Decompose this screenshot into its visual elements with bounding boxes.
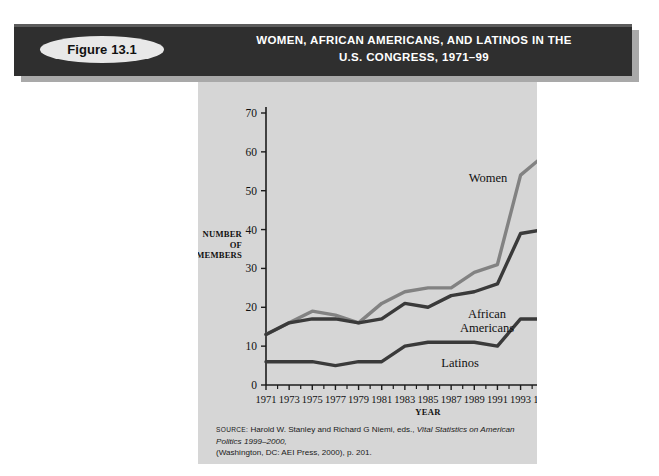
banner-bar: Figure 13.1 WOMEN, AFRICAN AMERICANS, AN… — [14, 24, 632, 76]
annotation-african-americans: African — [468, 307, 507, 321]
x-tick-label: 1995 — [533, 394, 537, 405]
x-tick-label: 1975 — [302, 394, 323, 405]
figure-title: WOMEN, AFRICAN AMERICANS, AND LATINOS IN… — [214, 32, 614, 66]
y-axis-title-line: MEMBERS — [198, 250, 242, 260]
source-prefix: SOURCE: — [216, 426, 248, 433]
y-tick-label: 70 — [246, 107, 258, 119]
figure-number-label: Figure 13.1 — [67, 42, 137, 57]
x-tick-label: 1973 — [279, 394, 300, 405]
source-note: SOURCE: Harold W. Stanley and Richard G … — [216, 424, 526, 459]
y-tick-label: 0 — [251, 379, 257, 391]
x-tick-labels: 1971197319751977197919811983198519871989… — [256, 394, 538, 405]
figure-number-badge: Figure 13.1 — [40, 36, 164, 63]
banner-top-bevel — [14, 24, 632, 27]
annotation-women: Women — [469, 171, 508, 185]
annotation-african-americans: Americans — [460, 321, 514, 335]
x-tick-label: 1989 — [464, 394, 485, 405]
x-tick-label: 1993 — [510, 394, 531, 405]
source-text-1: Harold W. Stanley and Richard G Niemi, e… — [250, 425, 414, 434]
y-axis-title-line: NUMBER — [203, 229, 243, 239]
x-tick-label: 1981 — [371, 394, 392, 405]
figure-banner: Figure 13.1 WOMEN, AFRICAN AMERICANS, AN… — [14, 24, 639, 82]
y-axis-title-line: OF — [230, 240, 242, 250]
y-tick-label: 10 — [246, 340, 258, 352]
x-tick-label: 1987 — [441, 394, 462, 405]
line-chart: 010203040506070 197119731975197719791981… — [198, 82, 537, 464]
x-tick-label: 1971 — [256, 394, 277, 405]
figure-title-line-1: WOMEN, AFRICAN AMERICANS, AND LATINOS IN… — [214, 32, 614, 49]
y-tick-label: 20 — [246, 301, 258, 313]
x-tick-label: 1979 — [348, 394, 369, 405]
chart-canvas: 010203040506070 197119731975197719791981… — [198, 82, 537, 464]
y-tick-labels: 010203040506070 — [246, 107, 258, 391]
annotation-latinos: Latinos — [441, 356, 479, 370]
y-tick-label: 40 — [246, 224, 258, 236]
x-axis-title: YEAR — [415, 407, 441, 417]
x-tick-label: 1985 — [418, 394, 439, 405]
x-tick-label: 1983 — [394, 394, 415, 405]
source-text-2: (Washington, DC: AEI Press, 2000), p. 20… — [216, 447, 526, 459]
y-tick-label: 30 — [246, 262, 258, 274]
x-tick-label: 1991 — [487, 394, 508, 405]
series-line-women — [266, 125, 537, 335]
y-tick-label: 60 — [246, 146, 258, 158]
figure-title-line-2: U.S. CONGRESS, 1971–99 — [214, 49, 614, 66]
y-tick-label: 50 — [246, 185, 258, 197]
figure-page: Figure 13.1 WOMEN, AFRICAN AMERICANS, AN… — [0, 0, 659, 476]
x-tick-label: 1977 — [325, 394, 346, 405]
